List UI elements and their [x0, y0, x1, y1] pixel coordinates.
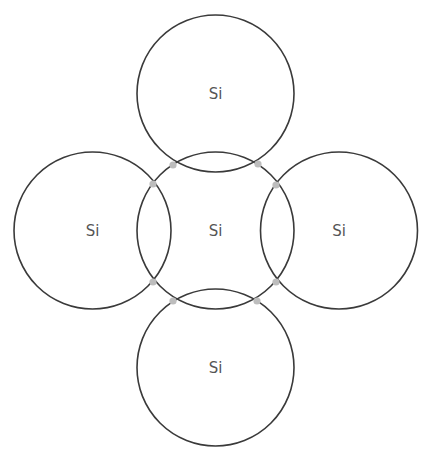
electron-dot: [272, 181, 279, 188]
electron-dot: [149, 278, 156, 285]
electron-dot: [149, 180, 156, 187]
atom-label-top: Si: [209, 85, 223, 103]
electron-dot: [169, 297, 176, 304]
electron-dot: [254, 160, 261, 167]
electron-dot: [272, 278, 279, 285]
silicon-bonding-diagram: Si Si Si Si Si: [0, 0, 424, 457]
electron-dot: [253, 297, 260, 304]
atom-label-center: Si: [209, 222, 223, 240]
electron-dot: [169, 161, 176, 168]
atom-label-left: Si: [86, 222, 100, 240]
atom-label-right: Si: [332, 222, 346, 240]
atom-labels: Si Si Si Si Si: [86, 85, 346, 377]
atom-label-bottom: Si: [209, 359, 223, 377]
